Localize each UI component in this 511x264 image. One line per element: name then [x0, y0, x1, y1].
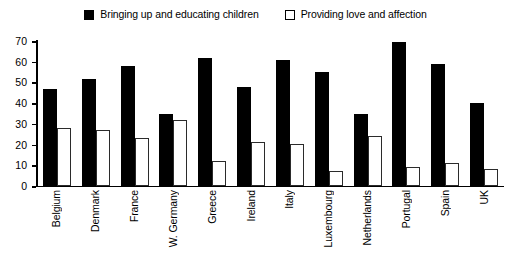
y-tick-label: 70: [15, 36, 27, 47]
category-label: Portugal: [401, 190, 412, 228]
y-tick-label: 20: [15, 139, 27, 150]
bar: [315, 72, 329, 185]
bar-group: [392, 40, 420, 186]
bar-group: [82, 40, 110, 186]
bar-group: [315, 40, 343, 186]
bar-groups: [38, 40, 504, 186]
category-label: Spain: [440, 190, 451, 216]
bar: [237, 87, 251, 186]
y-tick-mark: 70: [32, 41, 36, 43]
plot-area: 010203040506070: [36, 40, 504, 187]
bar: [470, 103, 484, 185]
bar: [96, 130, 110, 186]
y-tick-label: 40: [15, 98, 27, 109]
bar: [368, 136, 382, 185]
y-tick-mark: 40: [32, 103, 36, 105]
bar-group: [237, 40, 265, 186]
bar-group: [276, 40, 304, 186]
category-label: W. Germany: [168, 190, 179, 247]
bar: [392, 42, 406, 186]
category-label: Greece: [207, 190, 218, 224]
bar: [173, 120, 187, 186]
category-label: UK: [479, 190, 490, 204]
legend-label-0: Bringing up and educating children: [100, 9, 258, 20]
bar: [329, 171, 343, 185]
category-label: Italy: [284, 190, 295, 209]
bar: [43, 89, 57, 186]
legend-entry-1: Providing love and affection: [285, 9, 427, 20]
y-tick-label: 0: [21, 181, 27, 192]
bar-group: [121, 40, 149, 186]
bar-group: [470, 40, 498, 186]
y-tick-mark: 0: [32, 186, 36, 188]
y-tick-label: 30: [15, 119, 27, 130]
bar-group: [431, 40, 459, 186]
y-tick-mark: 10: [32, 165, 36, 167]
bar: [290, 144, 304, 185]
y-tick-mark: 20: [32, 145, 36, 147]
bar: [406, 167, 420, 186]
bar: [445, 163, 459, 186]
bar: [57, 128, 71, 186]
category-label: Belgium: [51, 190, 62, 227]
y-tick-mark: 50: [32, 82, 36, 84]
bar: [121, 66, 135, 185]
bar: [82, 79, 96, 186]
bar: [159, 114, 173, 186]
category-label: Denmark: [90, 190, 101, 232]
bar: [354, 114, 368, 186]
category-label: Luxembourg: [323, 190, 334, 247]
bar-group: [43, 40, 71, 186]
y-tick-mark: 60: [32, 62, 36, 64]
bar: [484, 169, 498, 185]
x-axis: [36, 186, 504, 188]
y-tick-label: 50: [15, 77, 27, 88]
category-label: Netherlands: [362, 190, 373, 246]
bar: [135, 138, 149, 185]
bar: [212, 161, 226, 186]
legend-entry-0: Bringing up and educating children: [84, 9, 258, 20]
bar: [431, 64, 445, 185]
chart-legend: Bringing up and educating children Provi…: [0, 9, 511, 20]
bar: [276, 60, 290, 185]
bar: [198, 58, 212, 186]
bar-chart: Bringing up and educating children Provi…: [0, 0, 511, 264]
x-axis-category-labels: BelgiumDenmarkFranceW. GermanyGreeceIrel…: [38, 190, 504, 262]
bar-group: [198, 40, 226, 186]
category-label: Ireland: [246, 190, 257, 221]
y-tick-label: 10: [15, 160, 27, 171]
y-tick-label: 60: [15, 56, 27, 67]
legend-label-1: Providing love and affection: [301, 9, 427, 20]
y-tick-mark: 30: [32, 124, 36, 126]
filled-square-icon: [84, 10, 94, 20]
bar-group: [354, 40, 382, 186]
category-label: France: [129, 190, 140, 222]
open-square-icon: [285, 10, 295, 20]
bar: [251, 142, 265, 185]
bar-group: [159, 40, 187, 186]
